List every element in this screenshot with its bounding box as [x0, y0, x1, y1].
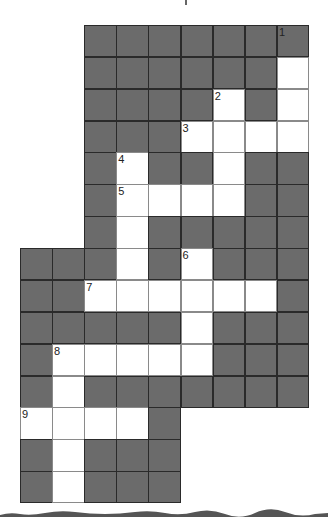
- crossword-cell-open[interactable]: [181, 184, 214, 216]
- crossword-cell-open[interactable]: [52, 407, 85, 439]
- crossword-cell-block: [181, 216, 214, 248]
- crossword-cell-open[interactable]: [277, 121, 310, 153]
- crossword-cell-block: [181, 152, 214, 184]
- crossword-cell-open[interactable]: [213, 184, 246, 216]
- crossword-cell-block: [277, 184, 310, 216]
- crossword-cell-open[interactable]: [181, 280, 214, 312]
- crossword-cell-block: [277, 344, 310, 376]
- crossword-cell-block: [116, 312, 149, 344]
- crossword-cell-block: [277, 312, 310, 344]
- crossword-cell-block: [148, 152, 181, 184]
- crossword-cell-open[interactable]: [245, 121, 278, 153]
- crossword-cell-open[interactable]: [245, 280, 278, 312]
- crossword-cell-block: [52, 312, 85, 344]
- crossword-cell-block: [116, 89, 149, 121]
- crossword-cell-block: [148, 89, 181, 121]
- crossword-cell-open[interactable]: [116, 344, 149, 376]
- crossword-cell-block: [245, 184, 278, 216]
- crossword-cell-block: [20, 312, 53, 344]
- crossword-cell-block: [181, 25, 214, 57]
- crossword-cell-open[interactable]: [52, 471, 85, 503]
- crossword-cell-open[interactable]: [84, 344, 117, 376]
- clue-number: 2: [215, 90, 221, 102]
- crossword-cell-open[interactable]: 4: [116, 152, 149, 184]
- crossword-cell-block: [148, 312, 181, 344]
- crossword-cell-block: [213, 57, 246, 89]
- crossword-cell-block: [84, 121, 117, 153]
- crossword-cell-block: [245, 248, 278, 280]
- crossword-cell-block: [84, 216, 117, 248]
- crossword-cell-block: [245, 216, 278, 248]
- crossword-cell-block: [277, 280, 310, 312]
- crossword-cell-block: [84, 312, 117, 344]
- crossword-cell-open[interactable]: 9: [20, 407, 53, 439]
- crossword-cell-block: [213, 248, 246, 280]
- crossword-cell-block: [148, 121, 181, 153]
- crossword-cell-block: [213, 25, 246, 57]
- crossword-cell-open[interactable]: [84, 407, 117, 439]
- crossword-cell-block: [84, 89, 117, 121]
- crossword-cell-block: [116, 57, 149, 89]
- crossword-cell-open[interactable]: 3: [181, 121, 214, 153]
- crossword-cell-block: [84, 184, 117, 216]
- crossword-cell-open[interactable]: 8: [52, 344, 85, 376]
- crossword-cell-block: [84, 57, 117, 89]
- crossword-cell-block: [181, 57, 214, 89]
- crossword-cell-open[interactable]: 5: [116, 184, 149, 216]
- crossword-cell-open[interactable]: [148, 184, 181, 216]
- clue-number: 5: [118, 185, 124, 197]
- crossword-cell-open[interactable]: [116, 216, 149, 248]
- crossword-cell-open[interactable]: [213, 152, 246, 184]
- crossword-cell-open[interactable]: [116, 407, 149, 439]
- crossword-cell-open[interactable]: 7: [84, 280, 117, 312]
- crossword-cell-block: [245, 57, 278, 89]
- crossword-cell-open[interactable]: [52, 376, 85, 408]
- crossword-cell-open[interactable]: [148, 280, 181, 312]
- crossword-cell-open[interactable]: [116, 248, 149, 280]
- crossword-grid: 123456789: [20, 25, 309, 503]
- crossword-cell-block: [277, 216, 310, 248]
- crossword-cell-block: [148, 25, 181, 57]
- crossword-cell-block: [213, 312, 246, 344]
- crossword-cell-block: [84, 248, 117, 280]
- crossword-cell-block: [116, 121, 149, 153]
- crossword-cell-block: [245, 89, 278, 121]
- crossword-cell-block: [148, 407, 181, 439]
- crossword-cell-block: [277, 248, 310, 280]
- crossword-cell-block: [20, 280, 53, 312]
- crossword-cell-block: [148, 376, 181, 408]
- crossword-cell-open[interactable]: [181, 344, 214, 376]
- clue-number: 8: [54, 345, 60, 357]
- crossword-cell-open[interactable]: 2: [213, 89, 246, 121]
- clue-number: 9: [22, 408, 28, 420]
- crossword-cell-block: [181, 89, 214, 121]
- crossword-cell-block: [148, 248, 181, 280]
- crossword-cell-block: [116, 25, 149, 57]
- crossword-cell-block: [277, 376, 310, 408]
- crossword-cell-open[interactable]: 6: [181, 248, 214, 280]
- crossword-cell-open[interactable]: [213, 121, 246, 153]
- clue-number: 7: [86, 281, 92, 293]
- crossword-cell-block: [181, 376, 214, 408]
- crossword-cell-open[interactable]: [213, 280, 246, 312]
- crossword-cell-block: [245, 344, 278, 376]
- crossword-cell-block: [52, 248, 85, 280]
- crossword-cell-block: [148, 471, 181, 503]
- crossword-cell-block: [20, 376, 53, 408]
- crossword-cell-open[interactable]: [148, 344, 181, 376]
- crossword-cell-block: [20, 248, 53, 280]
- crossword-cell-open[interactable]: [181, 312, 214, 344]
- crossword-cell-block: [84, 152, 117, 184]
- crossword-cell-open[interactable]: [52, 439, 85, 471]
- crossword-cell-open[interactable]: [277, 57, 310, 89]
- crossword-cell-block: [116, 471, 149, 503]
- crossword-cell-block: [213, 376, 246, 408]
- crossword-cell-open[interactable]: [277, 89, 310, 121]
- crossword-cell-block: [20, 439, 53, 471]
- crossword-cell-block: [52, 280, 85, 312]
- crossword-cell-block: [245, 312, 278, 344]
- crossword-cell-block: [245, 25, 278, 57]
- crossword-cell-block: [84, 376, 117, 408]
- crossword-cell-open[interactable]: [116, 280, 149, 312]
- clue-number: 3: [183, 122, 189, 134]
